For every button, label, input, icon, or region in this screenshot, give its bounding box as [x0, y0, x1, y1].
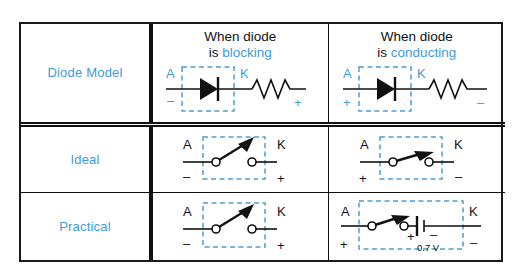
- cathode-polarity-label: –: [455, 169, 463, 184]
- dashed-model-box: [203, 137, 265, 179]
- diode-triangle-icon: [377, 78, 395, 100]
- anode-polarity-label: –: [183, 236, 191, 251]
- switch-lever-closed-icon: [396, 154, 420, 161]
- cell-diode-model-conducting: When diode is conducting A +: [328, 24, 505, 124]
- cathode-polarity-label: +: [294, 95, 302, 110]
- switch-arrow-head-icon: [238, 204, 254, 219]
- table-row-ideal: Ideal A –: [21, 124, 505, 192]
- row-label-cell-practical: Practical: [21, 192, 151, 260]
- cathode-polarity-label: +: [277, 238, 285, 253]
- column-header-conducting-line1: When diode: [377, 29, 456, 45]
- switch-terminal-right-icon: [248, 225, 256, 233]
- anode-label: A: [360, 137, 369, 152]
- switch-arrow-head-icon: [238, 137, 254, 152]
- cathode-label: K: [277, 137, 286, 152]
- cathode-label: K: [417, 66, 426, 81]
- anode-label: A: [166, 66, 175, 81]
- circuit-diode-conducting: A + K –: [337, 63, 497, 115]
- circuit-diode-blocking: A –: [160, 63, 320, 115]
- circuit-ideal-conducting: A + K: [342, 131, 492, 187]
- cathode-label: K: [240, 66, 249, 81]
- row-label-text: Diode Model: [21, 65, 149, 80]
- switch-terminal-left-icon: [389, 158, 397, 166]
- column-header-blocking-prefix: is: [209, 45, 223, 60]
- cathode-polarity-label: –: [477, 95, 485, 110]
- row-label-cell-ideal: Ideal: [21, 124, 151, 192]
- anode-polarity-label: +: [343, 95, 351, 110]
- column-header-conducting-prefix: is: [377, 45, 391, 60]
- cathode-label: K: [454, 137, 463, 152]
- anode-polarity-label: +: [340, 237, 348, 252]
- battery-plus-label: +: [407, 229, 415, 244]
- anode-label: A: [343, 66, 352, 81]
- switch-terminal-left-icon: [368, 222, 376, 230]
- anode-polarity-label: –: [167, 93, 175, 108]
- cell-ideal-blocking: A – K: [151, 124, 328, 192]
- figure-root: Diode Model When diode is blocking: [0, 0, 518, 269]
- circuit-practical-blocking: A – K +: [165, 197, 315, 255]
- dashed-model-box: [203, 203, 265, 247]
- cell-practical-conducting: A +: [328, 192, 505, 260]
- anode-label: A: [341, 204, 350, 219]
- anode-polarity-label: +: [359, 171, 367, 186]
- anode-label: A: [183, 137, 192, 152]
- column-header-blocking: When diode is blocking: [204, 29, 276, 61]
- column-header-blocking-highlight: blocking: [222, 45, 272, 60]
- cathode-label: K: [277, 204, 286, 219]
- switch-terminal-right-icon: [248, 158, 256, 166]
- table-row-diode-model: Diode Model When diode is blocking: [21, 24, 505, 124]
- switch-terminal-right-icon: [425, 158, 433, 166]
- comparison-table: Diode Model When diode is blocking: [21, 24, 505, 260]
- cell-ideal-conducting: A + K: [328, 124, 505, 192]
- column-header-conducting: When diode is conducting: [377, 29, 456, 61]
- dashed-model-box: [380, 137, 442, 179]
- diode-triangle-icon: [200, 78, 218, 100]
- cathode-label: K: [469, 204, 478, 219]
- anode-label: A: [183, 204, 192, 219]
- cathode-polarity-label: –: [470, 235, 478, 250]
- cathode-polarity-label: +: [277, 171, 285, 186]
- column-header-blocking-line1: When diode: [204, 29, 276, 45]
- diode-model-table: Diode Model When diode is blocking: [19, 22, 503, 262]
- cell-diode-model-blocking: When diode is blocking A –: [151, 24, 328, 124]
- battery-voltage-note: 0.7 V: [417, 242, 440, 253]
- anode-polarity-label: –: [183, 169, 191, 184]
- battery-minus-label: –: [430, 227, 438, 242]
- row-label-text: Practical: [21, 219, 149, 234]
- cell-practical-blocking: A – K +: [151, 192, 328, 260]
- row-label-cell-diode-model: Diode Model: [21, 24, 151, 124]
- row-label-text: Ideal: [21, 152, 149, 167]
- column-header-conducting-highlight: conducting: [391, 45, 456, 60]
- table-row-practical: Practical A –: [21, 192, 505, 260]
- circuit-practical-conducting: A +: [331, 197, 503, 255]
- circuit-ideal-blocking: A – K: [165, 131, 315, 187]
